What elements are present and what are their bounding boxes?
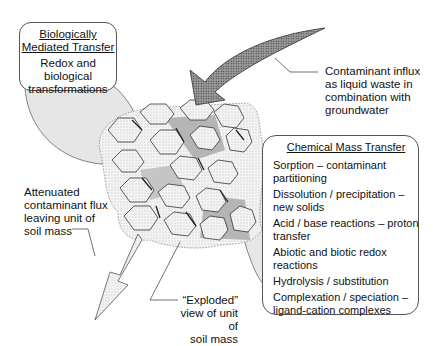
exploded-view-label: “Exploded” view of unit of soil mass [168,294,238,346]
influx-arrow [190,28,325,105]
chemical-item: Complexation / speciation –ligand-cation… [273,291,419,317]
chemical-item: Sorption – contaminantpartitioning [273,159,419,185]
chemical-item: Abiotic and biotic redoxreactions [273,246,419,272]
chemical-item: Hydrolysis / substitution [273,275,419,288]
chemical-item: Dissolution / precipitation –new solids [273,188,419,214]
chemical-title: Chemical Mass Transfer [273,141,419,154]
chemical-box-text: Chemical Mass Transfer Sorption – contam… [273,141,419,320]
influx-label: Contaminant influx as liquid waste in co… [325,65,420,117]
biological-body-3: transformations [19,83,117,96]
biological-title-2: Mediated Transfer [19,41,117,54]
outflux-label: Attenuated contaminant flux leaving unit… [24,186,108,238]
biological-body-2: biological [19,70,117,83]
biological-title-1: Biologically [19,28,117,41]
outflux-arrow [95,234,142,320]
biological-body-1: Redox and [19,57,117,70]
biological-box-text: Biologically Mediated Transfer Redox and… [19,28,117,96]
chemical-item: Acid / base reactions – protontransfer [273,217,419,243]
